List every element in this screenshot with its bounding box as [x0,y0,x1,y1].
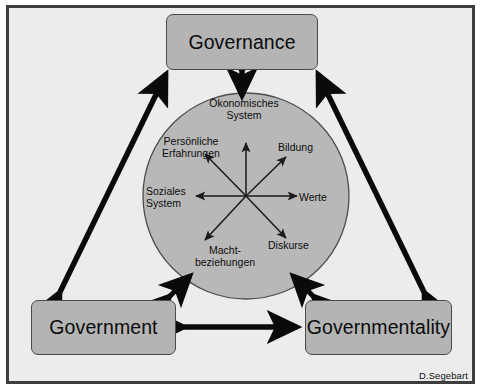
sphere-label-soziales-system: Soziales System [146,186,202,209]
sphere-label-diskurse: Diskurse [268,240,330,252]
sphere-label-werte: Werte [299,192,349,204]
node-government-label: Government [49,316,157,339]
node-governmentality[interactable]: Governmentality [305,300,452,355]
sphere-label-persoenliche-erfahrungen: Persönliche Erfahrungen [148,136,234,159]
node-governance-label: Governance [188,31,295,54]
node-governmentality-label: Governmentality [307,316,450,339]
diagram-root: Governance Government Governmentality Ök… [0,0,484,391]
sphere-label-oekonomisches-system: Ökonomisches System [196,98,292,121]
sphere-label-bildung: Bildung [278,142,338,154]
node-government[interactable]: Government [31,300,176,355]
node-governance[interactable]: Governance [166,14,318,70]
sphere-label-machtbeziehungen: Macht- beziehungen [186,245,264,268]
author-credit: D.Segebart [419,370,468,381]
connector-government-sphere [170,276,190,296]
